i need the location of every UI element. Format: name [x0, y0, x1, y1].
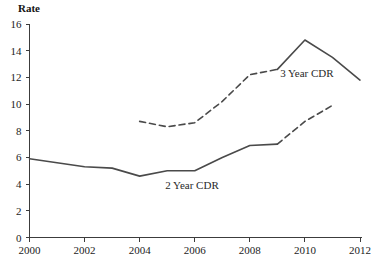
y-tick-label: 14 — [11, 45, 23, 57]
line-chart: Rate 0246810121416 200020022004200620082… — [0, 0, 381, 263]
y-axis-ticks: 0246810121416 — [11, 18, 30, 244]
x-tick-label: 2012 — [349, 244, 371, 256]
series-line-2-year-cdr-seg1 — [277, 105, 332, 144]
x-tick-label: 2008 — [239, 244, 262, 256]
x-tick-label: 2002 — [74, 244, 96, 256]
y-tick-label: 4 — [16, 178, 22, 190]
y-tick-label: 6 — [16, 151, 22, 163]
x-tick-label: 2010 — [294, 244, 317, 256]
y-tick-label: 0 — [16, 232, 22, 244]
y-tick-label: 10 — [11, 98, 23, 110]
x-tick-label: 2004 — [129, 244, 152, 256]
y-tick-label: 16 — [11, 18, 23, 30]
chart-container: Rate 0246810121416 200020022004200620082… — [0, 0, 381, 263]
x-tick-label: 2006 — [184, 244, 207, 256]
series-label-3-year-cdr: 3 Year CDR — [280, 67, 334, 79]
series-label-2-year-cdr: 2 Year CDR — [165, 179, 219, 191]
y-axis-title: Rate — [18, 2, 40, 14]
x-tick-label: 2000 — [19, 244, 42, 256]
series-line-3-year-cdr-seg0 — [140, 69, 278, 126]
series-line-2-year-cdr-seg0 — [30, 144, 278, 176]
y-tick-label: 12 — [11, 71, 22, 83]
x-axis-ticks: 2000200220042006200820102012 — [19, 238, 372, 256]
series-group — [30, 40, 361, 176]
y-tick-label: 2 — [16, 205, 22, 217]
y-tick-label: 8 — [16, 125, 22, 137]
